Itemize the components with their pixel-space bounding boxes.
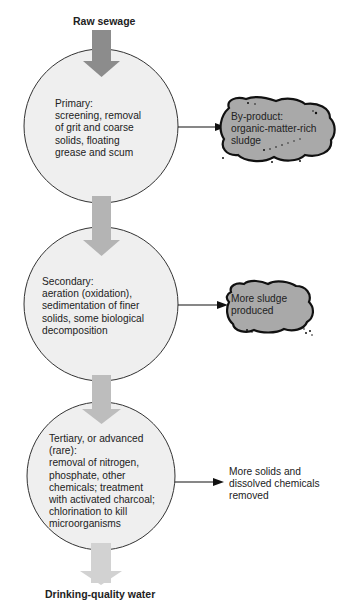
byproduct-line: dissolved chemicals <box>229 478 320 490</box>
stage-line: with activated charcoal; <box>49 494 155 506</box>
stage-line: chemicals; treatment <box>49 482 155 494</box>
output-label: Drinking-quality water <box>45 588 155 600</box>
secondary-byproduct-text: More sludge produced <box>231 293 287 317</box>
tertiary-byproduct-text: More solids and dissolved chemicals remo… <box>229 466 320 503</box>
byproduct-line: removed <box>229 490 320 502</box>
byproduct-line: organic-matter-rich <box>231 123 317 135</box>
primary-byproduct-text: By-product: organic-matter-rich sludge <box>231 111 317 148</box>
right-arrow-icon <box>178 301 228 309</box>
byproduct-line: By-product: <box>231 111 317 123</box>
byproduct-line: More solids and <box>229 466 320 478</box>
right-arrow-icon <box>178 123 226 131</box>
byproduct-line: More sludge <box>231 293 287 305</box>
stage-line: of grit and coarse <box>55 122 141 134</box>
stage-line: Secondary: <box>42 276 144 288</box>
down-arrow-icon <box>80 543 122 585</box>
stage-line: Tertiary, or advanced <box>49 433 155 445</box>
stage-line: grease and scum <box>55 147 141 159</box>
stage-line: microorganisms <box>49 518 155 530</box>
stage-line: decomposition <box>42 325 144 337</box>
stage-line: (rare): <box>49 445 155 457</box>
primary-stage-text: Primary: screening, removal of grit and … <box>55 98 141 159</box>
tertiary-stage-text: Tertiary, or advanced (rare): removal of… <box>49 433 155 531</box>
stage-line: aeration (oxidation), <box>42 288 144 300</box>
stage-line: phosphate, other <box>49 470 155 482</box>
stage-line: sedimentation of finer <box>42 300 144 312</box>
stage-line: chlorination to kill <box>49 506 155 518</box>
right-arrow-icon <box>175 478 224 486</box>
stage-line: solids, floating <box>55 135 141 147</box>
stage-line: Primary: <box>55 98 141 110</box>
byproduct-line: sludge <box>231 135 317 147</box>
stage-line: solids, some biological <box>42 313 144 325</box>
byproduct-line: produced <box>231 305 287 317</box>
secondary-stage-text: Secondary: aeration (oxidation), sedimen… <box>42 276 144 337</box>
input-label: Raw sewage <box>73 15 135 27</box>
stage-line: removal of nitrogen, <box>49 457 155 469</box>
stage-line: screening, removal <box>55 110 141 122</box>
